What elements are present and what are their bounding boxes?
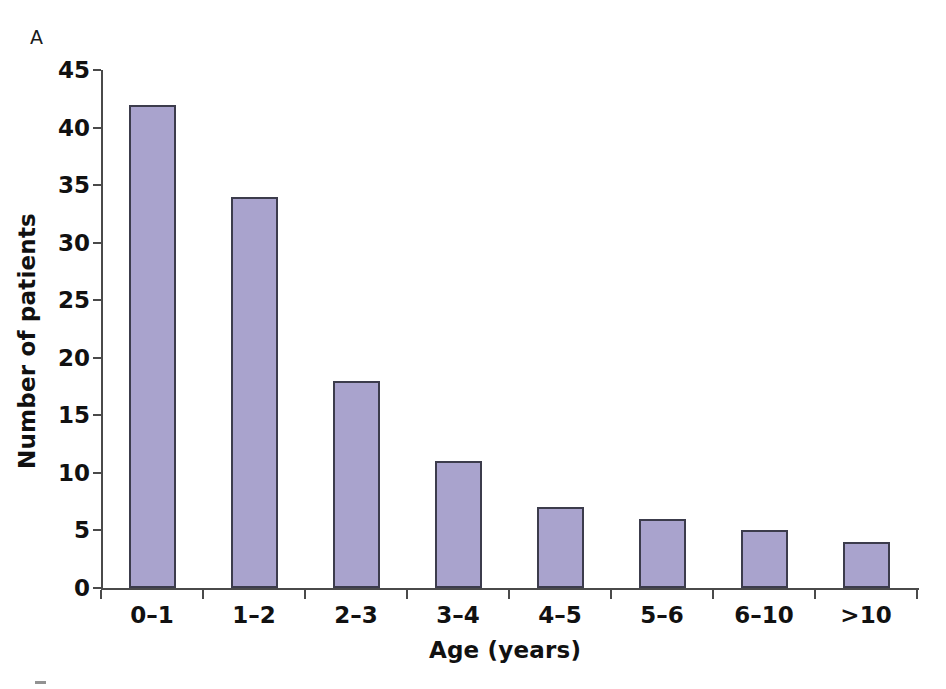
- y-axis-tick-label: 35: [58, 172, 90, 198]
- bar: [537, 507, 584, 588]
- x-axis-tick-label: 1–2: [232, 602, 276, 628]
- bar: [129, 105, 176, 588]
- bar: [435, 461, 482, 588]
- x-axis-tick-label: 2–3: [334, 602, 378, 628]
- x-axis-tick: [100, 590, 102, 599]
- y-axis-tick: [93, 472, 101, 474]
- y-axis-tick-label: 10: [58, 460, 90, 486]
- y-axis-tick: [93, 357, 101, 359]
- x-axis-title: Age (years): [0, 637, 946, 663]
- x-axis-tick: [202, 590, 204, 599]
- x-axis-tick: [304, 590, 306, 599]
- x-axis-tick: [406, 590, 408, 599]
- x-axis-tick: [916, 590, 918, 599]
- x-axis-tick: [508, 590, 510, 599]
- y-axis-tick: [93, 184, 101, 186]
- y-axis-tick-label: 15: [58, 402, 90, 428]
- bar: [639, 519, 686, 588]
- panel-label-b-fragment: [35, 681, 46, 684]
- y-axis-tick: [93, 414, 101, 416]
- plot-area: 051015202530354045: [101, 70, 917, 588]
- bar: [333, 381, 380, 588]
- y-axis-tick-label: 45: [58, 57, 90, 83]
- x-axis-tick-label: 5–6: [640, 602, 684, 628]
- y-axis-tick: [93, 299, 101, 301]
- figure-panel-a: A Number of patients 051015202530354045 …: [0, 0, 946, 689]
- y-axis-tick-label: 25: [58, 287, 90, 313]
- y-axis-tick: [93, 69, 101, 71]
- y-axis-tick: [93, 127, 101, 129]
- bar: [843, 542, 890, 588]
- y-axis-tick-label: 0: [74, 575, 90, 601]
- y-axis-tick: [93, 242, 101, 244]
- x-axis-tick-label: 0–1: [130, 602, 174, 628]
- x-axis-tick: [814, 590, 816, 599]
- x-axis-tick: [610, 590, 612, 599]
- x-axis-tick-label: 3–4: [436, 602, 480, 628]
- bar: [741, 530, 788, 588]
- y-axis-tick-label: 30: [58, 230, 90, 256]
- y-axis-title: Number of patients: [14, 61, 40, 621]
- y-axis-tick-label: 20: [58, 345, 90, 371]
- x-axis-tick-label: 4–5: [538, 602, 582, 628]
- y-axis-title-holder: Number of patients: [12, 70, 42, 588]
- y-axis-tick: [93, 529, 101, 531]
- panel-label-a: A: [30, 26, 44, 48]
- y-axis-tick: [93, 587, 101, 589]
- y-axis-tick-label: 5: [74, 517, 90, 543]
- x-axis-line: [101, 588, 919, 590]
- bar: [231, 197, 278, 588]
- x-axis-tick-label: 6–10: [734, 602, 794, 628]
- y-axis-tick-label: 40: [58, 115, 90, 141]
- x-axis-tick-label: >10: [840, 602, 891, 628]
- x-axis-tick: [712, 590, 714, 599]
